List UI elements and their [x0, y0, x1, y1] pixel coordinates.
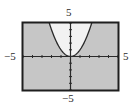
graph-window — [0, 0, 133, 107]
calculator-graph-figure: 5 −5 −5 5 — [0, 0, 133, 107]
